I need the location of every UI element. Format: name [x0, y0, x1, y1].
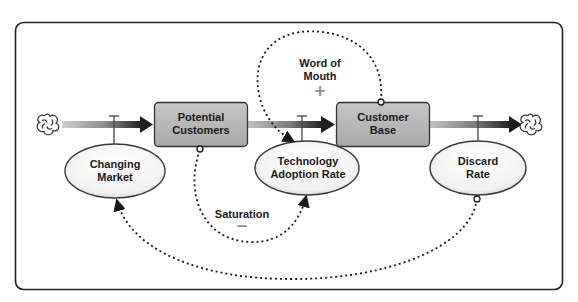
- label-line: Customers: [172, 124, 229, 137]
- label-line: Discard: [458, 155, 498, 168]
- link-origin-potential-customers: [197, 146, 203, 152]
- minus-sign-icon: −: [236, 219, 249, 234]
- label-line: Base: [357, 124, 408, 137]
- label-line: Customer: [357, 111, 408, 124]
- aux-changing-market-label: Changing Market: [90, 158, 141, 184]
- label-line: Rate: [458, 168, 498, 181]
- diagram-graphics: [0, 0, 578, 302]
- plus-sign-icon: +: [314, 84, 327, 99]
- aux-technology-adoption-rate-label: Technology Adoption Rate: [270, 155, 345, 181]
- loop-word-of-mouth-label: Word of Mouth: [299, 57, 340, 83]
- stock-customer-base-label: Customer Base: [357, 111, 408, 137]
- link-origin-customer-base: [378, 99, 384, 105]
- diagram-canvas: Potential Customers Customer Base Changi…: [0, 0, 578, 302]
- label-line: Potential: [172, 111, 229, 124]
- label-line: Technology: [270, 155, 345, 168]
- aux-discard-rate-label: Discard Rate: [458, 155, 498, 181]
- label-line: Adoption Rate: [270, 168, 345, 181]
- stock-potential-customers-label: Potential Customers: [172, 111, 229, 137]
- link-origin-discard-rate: [474, 196, 480, 202]
- label-line: Word of: [299, 57, 340, 70]
- label-line: Market: [90, 171, 141, 184]
- label-line: Changing: [90, 158, 141, 171]
